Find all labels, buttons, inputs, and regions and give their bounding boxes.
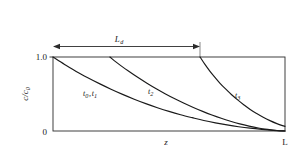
curve-label-t0-t1: t0,t1 bbox=[83, 89, 97, 99]
arrow-head-left-icon bbox=[53, 44, 60, 49]
figure-container: Ld 1.0 0 c/c0 z L t0,t1 t2 t3 bbox=[0, 0, 300, 155]
concentration-profile-chart: Ld 1.0 0 c/c0 z L t0,t1 t2 t3 bbox=[0, 0, 300, 155]
curve-label-t2-sub: 2 bbox=[150, 90, 153, 97]
depletion-length-label: Ld bbox=[114, 34, 124, 45]
y-tick-label-1: 1.0 bbox=[36, 52, 48, 62]
curve-label-t3: t3 bbox=[235, 91, 240, 101]
curve-label-t3-sub: 3 bbox=[236, 94, 240, 101]
x-tick-label-right: L bbox=[282, 137, 288, 147]
curve-t0-t1: t0,t1 bbox=[53, 57, 285, 131]
curve-path-t3 bbox=[200, 57, 285, 126]
y-axis-title: c/c0 bbox=[20, 86, 31, 101]
curve-label-t1-sub: 1 bbox=[94, 92, 97, 99]
x-axis-title: z bbox=[163, 137, 168, 147]
y-axis-group: 1.0 0 c/c0 bbox=[20, 52, 53, 136]
curve-label-t2: t2 bbox=[148, 87, 153, 97]
curve-t2: t2 bbox=[110, 57, 285, 131]
y-origin-label: 0 bbox=[43, 127, 48, 137]
curve-label-comma: , bbox=[89, 89, 91, 98]
curve-path-t2 bbox=[110, 57, 285, 131]
y-axis-title-sub: 0 bbox=[24, 86, 31, 90]
x-axis-group: z L bbox=[163, 137, 288, 147]
curve-t3: t3 bbox=[200, 57, 285, 126]
y-axis-title-main: c/c bbox=[20, 90, 30, 101]
depletion-length-annotation: Ld bbox=[53, 34, 200, 59]
depletion-length-label-sub: d bbox=[120, 38, 124, 45]
arrow-head-right-icon bbox=[193, 44, 200, 49]
depletion-length-label-main: L bbox=[114, 34, 120, 44]
